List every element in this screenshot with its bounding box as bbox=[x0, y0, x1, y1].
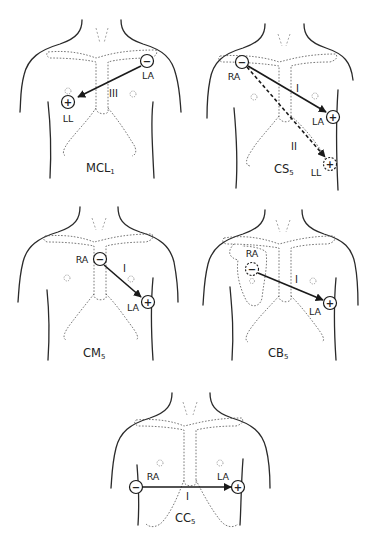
lead-label-i: I bbox=[296, 83, 299, 94]
svg-text:+: + bbox=[326, 298, 334, 309]
lead-label-ii: II bbox=[291, 141, 297, 152]
electrode-la-positive: + bbox=[232, 481, 245, 494]
panel-cs5: − RA + LA + LL I II CS5 bbox=[207, 24, 353, 190]
torso-outline bbox=[203, 210, 358, 360]
panel-title-cm5: CM5 bbox=[83, 346, 105, 361]
electrode-la-positive: + bbox=[327, 111, 340, 124]
svg-text:+: + bbox=[329, 112, 337, 123]
electrode-label-la: LA bbox=[312, 116, 325, 127]
nipple-right bbox=[157, 460, 163, 466]
nipple-left bbox=[130, 91, 136, 97]
svg-text:−: − bbox=[132, 482, 140, 493]
electrode-ra-negative: − bbox=[246, 263, 259, 276]
electrode-la-positive: + bbox=[142, 296, 155, 309]
electrode-ra-negative: − bbox=[94, 253, 107, 266]
panel-cm5: − RA + LA I CM5 bbox=[18, 207, 178, 361]
electrode-ll-positive: + bbox=[62, 96, 75, 109]
lead-vector-ii bbox=[247, 67, 325, 157]
neck-line bbox=[276, 220, 290, 232]
nipple-left bbox=[217, 460, 223, 466]
electrode-label-ra: RA bbox=[76, 254, 89, 265]
clavicle-sternum bbox=[223, 236, 335, 342]
svg-text:+: + bbox=[64, 97, 72, 108]
electrode-label-ll: LL bbox=[311, 167, 322, 178]
electrode-label-ra: RA bbox=[246, 248, 259, 259]
neck-line bbox=[278, 34, 290, 46]
lead-label-i: I bbox=[186, 491, 189, 502]
torso-outline bbox=[20, 20, 181, 178]
lead-label-i: I bbox=[123, 263, 126, 274]
electrode-label-la: LA bbox=[309, 306, 322, 317]
nipple-right bbox=[250, 279, 255, 284]
svg-text:−: − bbox=[248, 264, 256, 275]
electrode-la-negative: − bbox=[141, 55, 154, 68]
nipple-left bbox=[312, 93, 318, 99]
lead-vector-i bbox=[258, 273, 323, 300]
lead-label-i: I bbox=[295, 274, 298, 285]
electrode-la-positive: + bbox=[324, 297, 337, 310]
torso-outline bbox=[18, 207, 178, 360]
neck-line bbox=[96, 28, 108, 43]
svg-text:−: − bbox=[96, 254, 104, 265]
panel-cc5: − RA + LA I CC5 bbox=[111, 393, 270, 527]
nipple-left bbox=[128, 276, 134, 282]
neck-line bbox=[92, 218, 106, 230]
electrode-label-la: LA bbox=[217, 471, 230, 482]
electrode-label-ll: LL bbox=[63, 113, 74, 124]
svg-text:+: + bbox=[326, 159, 334, 170]
torso-outline bbox=[111, 393, 270, 525]
electrode-label-ra: RA bbox=[228, 71, 241, 82]
panel-title-cs5: CS5 bbox=[274, 162, 294, 177]
panel-title-cb5: CB5 bbox=[268, 346, 288, 361]
nipple-right bbox=[65, 88, 71, 94]
svg-text:−: − bbox=[143, 56, 151, 67]
electrode-label-la: LA bbox=[127, 302, 140, 313]
nipple-left bbox=[310, 278, 316, 284]
panel-title-cc5: CC5 bbox=[175, 511, 196, 526]
lead-vector-i bbox=[248, 66, 326, 112]
nipple-right bbox=[251, 94, 257, 100]
electrode-ra-negative: − bbox=[130, 481, 143, 494]
svg-text:+: + bbox=[234, 482, 242, 493]
neck-line bbox=[183, 402, 197, 415]
electrode-label-la: LA bbox=[142, 70, 155, 81]
ecg-lead-diagram: − LA + LL III MCL1 bbox=[0, 0, 372, 535]
electrode-label-ra: RA bbox=[147, 471, 160, 482]
panel-mcl1: − LA + LL III MCL1 bbox=[20, 20, 181, 178]
lead-label-iii: III bbox=[109, 88, 118, 99]
nipple-right bbox=[64, 275, 70, 281]
svg-text:−: − bbox=[238, 57, 246, 68]
panel-title-mcl1: MCL1 bbox=[86, 161, 115, 176]
electrode-ra-negative: − bbox=[236, 56, 249, 69]
svg-text:+: + bbox=[144, 297, 152, 308]
clavicle-sternum bbox=[44, 234, 153, 340]
electrode-ll-positive: + bbox=[324, 158, 337, 171]
panel-cb5: − RA + LA I CB5 bbox=[203, 210, 358, 361]
